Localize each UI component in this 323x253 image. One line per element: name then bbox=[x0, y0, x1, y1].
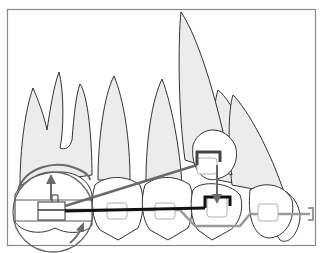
diagram-stage bbox=[0, 0, 323, 253]
bracket-premolar1 bbox=[155, 203, 175, 219]
orthodontic-diagram bbox=[0, 0, 323, 253]
bracket-lateral bbox=[258, 204, 278, 221]
bracket-canine-original bbox=[197, 158, 217, 174]
molar-tube bbox=[38, 202, 65, 220]
